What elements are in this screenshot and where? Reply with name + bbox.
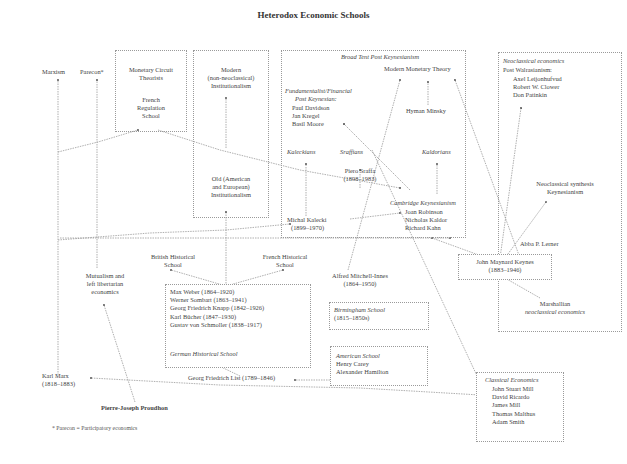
classical-members: John Stuart Mill David Ricardo James Mil… [492, 385, 535, 426]
node-american-school: American School Henry Carey Alexander Ha… [336, 352, 388, 377]
node-monetary-circuit: Monetary Circuit Theorists [118, 66, 184, 82]
node-proudhon: Pierre-Joseph Proudhon [101, 404, 168, 412]
node-sraffians: Sraffians [340, 148, 363, 156]
classical-header: Classical Economics [485, 376, 538, 384]
node-georg-list: Georg Friedrich List (1789–1846) [188, 374, 275, 382]
node-parecon: Parecon* [80, 68, 104, 76]
node-michal-kalecki: Michal Kalecki (1899–1970) [287, 216, 327, 232]
node-keynes: John Maynard Keynes (1883–1946) [458, 258, 552, 274]
post-walrasianism: Post Walrasianism: [503, 66, 552, 74]
neoclassical-header: Neoclassical economics [503, 57, 564, 65]
post-walrasian-members: Axel Leijonhufvud Robert W. Clower Don P… [513, 75, 562, 100]
node-french-regulation: French Regulation School [118, 96, 184, 121]
node-french-historical: French Historical School [250, 253, 320, 269]
fundamentalist-members: Paul Davidson Jan Kregel Basil Moore [292, 104, 329, 129]
node-marxism: Marxism [42, 68, 65, 76]
node-old-institutionalism: Old (American and European) Institutiona… [194, 175, 268, 200]
node-birmingham-school: Birmingham School (1815–1850s) [334, 306, 385, 322]
fundamentalist-header: Fundamentalist/Financial Post Keynesian: [285, 87, 352, 103]
cambridge-header: Cambridge Keynesianism [390, 199, 456, 207]
node-piero-sraffa: Piero Sraffa (1898–1983) [330, 167, 390, 183]
node-marshallian: Marshallian neoclassical economics [505, 300, 605, 316]
german-members: Max Weber (1864–1920) Werner Sombart (18… [170, 288, 264, 329]
node-kaldorians: Kaldorians [422, 148, 451, 156]
footnote: * Parecon = Participatory economics [52, 425, 137, 431]
node-british-historical: British Historical School [142, 253, 204, 269]
node-abba-lerner: Abba P. Lerner [520, 240, 559, 248]
node-kaleckians: Kaleckians [287, 148, 315, 156]
node-karl-marx: Karl Marx (1818–1883) [42, 372, 75, 388]
node-modern-monetary-theory: Modern Monetary Theory [384, 65, 451, 73]
german-header: German Historical School [170, 350, 237, 358]
node-neoclassical-synthesis: Neoclassical synthesis Keynesianism [510, 180, 620, 196]
node-hyman-minsky: Hyman Minsky [406, 107, 446, 115]
cambridge-members: Joan Robinson Nicholas Kaldor Richard Ka… [405, 208, 447, 233]
node-mutualism: Mutualism and left libertarian economics [70, 272, 140, 297]
node-modern-institutionalism: Modern (non-neoclassical) Institutionali… [194, 66, 268, 91]
broad-tent-header: Broad Tent Post Keynesianism [320, 53, 440, 61]
node-alfred-mitchell-innes: Alfred Mitchell-Innes (1864–1950) [320, 272, 400, 288]
